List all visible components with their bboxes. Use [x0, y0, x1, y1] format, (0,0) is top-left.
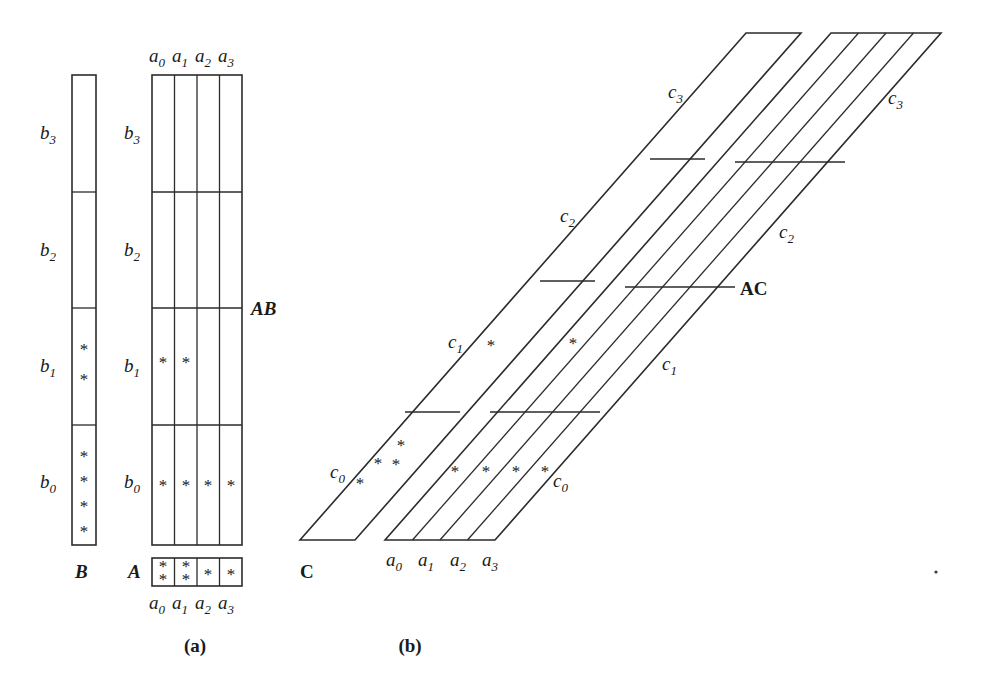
asterisk: *: [159, 353, 168, 372]
asterisk: *: [374, 454, 383, 473]
matrix-ac-col-label-a0: a0: [386, 549, 403, 574]
panel-a-caption: (a): [184, 635, 206, 657]
matrix-ac-band-label-c2: c2: [779, 221, 794, 246]
asterisk: *: [204, 565, 213, 584]
matrix-ac-col-label-a1: a1: [418, 549, 434, 574]
asterisk: *: [356, 474, 365, 493]
asterisk: *: [512, 462, 521, 481]
asterisk: *: [182, 476, 191, 495]
matrix-ab-grid: [152, 75, 242, 545]
matrix-ac-band-label-c3: c3: [888, 87, 903, 112]
vector-a-col-label-a1: a1: [172, 592, 188, 617]
matrix-c-band-label-c2: c2: [560, 205, 575, 230]
asterisk: *: [397, 436, 406, 455]
matrix-c-band-label-c0: c0: [330, 461, 345, 486]
asterisk: *: [227, 565, 236, 584]
asterisk: *: [182, 570, 191, 589]
asterisk: *: [80, 522, 89, 541]
asterisk: *: [182, 353, 191, 372]
asterisk: *: [204, 476, 213, 495]
figure-canvas: b3 b2 b1 b0 * * * * * * B: [0, 0, 985, 696]
matrix-ab-row-label-b3: b3: [124, 122, 141, 147]
matrix-ac-col-label-a2: a2: [450, 549, 467, 574]
asterisk: *: [392, 455, 401, 474]
matrix-b-row-label-b2: b2: [40, 239, 57, 264]
vector-a-col-label-a2: a2: [195, 592, 212, 617]
matrix-ab-row-label-b1: b1: [124, 355, 140, 380]
asterisk: *: [80, 497, 89, 516]
matrix-c-band-label-c3: c3: [668, 81, 683, 106]
asterisk: *: [487, 336, 496, 355]
matrix-ab-col-label-a3: a3: [218, 45, 235, 70]
asterisk: *: [80, 472, 89, 491]
matrix-c-band-labels: c3 c2 c1 c0: [330, 81, 683, 486]
matrix-ac-band-label-c0: c0: [553, 470, 568, 495]
asterisk: *: [159, 476, 168, 495]
matrix-ac-col-labels: a0 a1 a2 a3: [386, 549, 499, 574]
matrix-c-band-label-c1: c1: [448, 331, 463, 356]
asterisk: *: [80, 340, 89, 359]
asterisk: *: [569, 334, 578, 353]
vector-a-label: A: [127, 561, 141, 582]
matrix-ac-col-label-a3: a3: [482, 549, 499, 574]
matrix-ac-asterisks: * * * * *: [451, 334, 578, 481]
matrix-ac-band-label-c1: c1: [662, 353, 677, 378]
asterisk: *: [159, 570, 168, 589]
matrix-ab-label: AB: [250, 298, 276, 319]
asterisk: *: [541, 462, 550, 481]
matrix-ab-row-label-b0: b0: [124, 471, 141, 496]
matrix-ab-col-labels: a0 a1 a2 a3: [149, 45, 235, 70]
asterisk: *: [227, 476, 236, 495]
matrix-ac-grid: [385, 33, 941, 540]
matrix-b-row-labels: b3 b2 b1 b0: [40, 122, 57, 496]
vector-a-col-label-a3: a3: [218, 592, 235, 617]
matrix-ac-band-labels: c3 c2 c1 c0: [553, 87, 903, 495]
matrix-b-row-label-b1: b1: [40, 355, 56, 380]
asterisk: *: [482, 462, 491, 481]
panel-b: c3 c2 c1 c0 * * * * * C: [300, 33, 941, 657]
matrix-c-label: C: [300, 561, 314, 582]
panel-b-caption: (b): [398, 635, 421, 657]
matrix-b-row-label-b0: b0: [40, 471, 57, 496]
panel-a: b3 b2 b1 b0 * * * * * * B: [40, 45, 276, 657]
matrix-ab-row-label-b2: b2: [124, 239, 141, 264]
matrix-b-label: B: [74, 561, 88, 582]
matrix-ab-col-label-a1: a1: [172, 45, 188, 70]
asterisk: *: [80, 370, 89, 389]
matrix-b-row-label-b3: b3: [40, 122, 57, 147]
print-speck: [934, 570, 937, 573]
matrix-b-asterisks: * * * * * *: [80, 340, 89, 541]
vector-a-col-label-a0: a0: [149, 592, 166, 617]
asterisk: *: [80, 447, 89, 466]
matrix-ab-col-label-a0: a0: [149, 45, 166, 70]
asterisk: *: [451, 462, 460, 481]
matrix-ab-row-labels: b3 b2 b1 b0: [124, 122, 141, 496]
vector-a-col-labels: a0 a1 a2 a3: [149, 592, 235, 617]
matrix-ac-label: AC: [740, 278, 767, 299]
matrix-ab-col-label-a2: a2: [195, 45, 212, 70]
